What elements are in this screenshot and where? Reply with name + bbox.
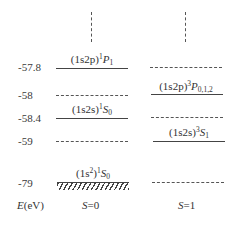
energy-tick-58: -58 <box>18 89 48 101</box>
state-label-1s2p-3P012: (1s2p)3P0,1,2 <box>150 79 222 94</box>
state-label-1s2-1S0: (1s2)1S0 <box>57 166 129 181</box>
energy-tick-59: -59 <box>18 135 48 147</box>
triplet-level-58-4-placeholder-line <box>151 117 223 118</box>
energy-tick-79: -79 <box>18 177 48 189</box>
triplet-level-79-placeholder-line <box>152 182 224 183</box>
energy-tick-57-8: -57.8 <box>18 61 48 73</box>
state-label-1s2s-3S1: (1s2s)3S1 <box>153 125 225 140</box>
singlet-continuation-line <box>91 12 92 42</box>
energy-axis-label: E(eV) <box>17 199 44 211</box>
triplet-continuation-line <box>185 12 186 42</box>
singlet-level-1P1-line <box>56 68 128 69</box>
state-label-1s2p-1P1: (1s2p)1P1 <box>56 52 128 67</box>
triplet-level-3P012-line <box>151 94 223 95</box>
singlet-level-1S0-line <box>56 118 128 119</box>
singlet-column-label: S=0 <box>82 199 99 211</box>
ground-state-hatched-line <box>57 182 129 190</box>
triplet-level-3S1-line <box>153 141 225 142</box>
energy-tick-58-4: -58.4 <box>18 112 48 124</box>
triplet-level-57-8-placeholder-line <box>150 67 222 68</box>
state-label-1s2s-1S0: (1s2s)1S0 <box>56 102 128 117</box>
triplet-column-label: S=1 <box>178 199 195 211</box>
singlet-level-58-placeholder-line <box>56 95 128 96</box>
singlet-level-59-placeholder-line <box>56 141 128 142</box>
